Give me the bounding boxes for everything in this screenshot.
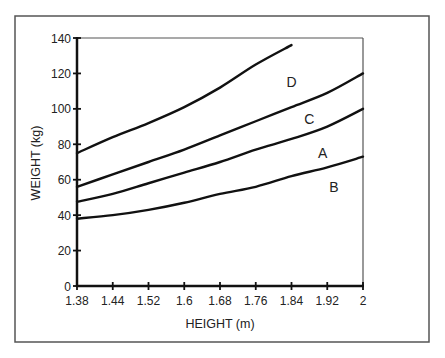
series-line-d (77, 45, 292, 153)
y-tick-label: 60 (58, 173, 72, 187)
y-axis-title: WEIGHT (kg) (29, 126, 43, 201)
series-label-a: A (318, 145, 328, 161)
series-label-b: B (329, 179, 338, 195)
x-tick-label: 1.76 (244, 294, 268, 308)
x-tick-label: 1.52 (137, 294, 161, 308)
x-tick-label: 1.68 (208, 294, 232, 308)
x-axis-title: HEIGHT (m) (185, 317, 254, 331)
x-tick-label: 1.6 (176, 294, 193, 308)
y-tick-label: 80 (58, 138, 72, 152)
y-tick-label: 100 (51, 102, 71, 116)
y-tick-label: 40 (58, 209, 72, 223)
y-tick-label: 140 (51, 32, 71, 46)
x-tick-label: 1.92 (316, 294, 340, 308)
weight-height-chart: 0204060801001201401.381.441.521.61.681.7… (0, 0, 445, 358)
x-tick-label: 2 (360, 294, 367, 308)
x-tick-label: 1.84 (280, 294, 304, 308)
x-tick-label: 1.44 (101, 294, 125, 308)
series-label-d: D (286, 74, 296, 90)
y-tick-label: 120 (51, 67, 71, 81)
y-tick-label: 20 (58, 244, 72, 258)
series-label-c: C (304, 111, 314, 127)
y-tick-label: 0 (64, 280, 71, 294)
x-tick-label: 1.38 (65, 294, 89, 308)
series-line-b (77, 157, 363, 219)
plot-area: 0204060801001201401.381.441.521.61.681.7… (51, 32, 367, 309)
